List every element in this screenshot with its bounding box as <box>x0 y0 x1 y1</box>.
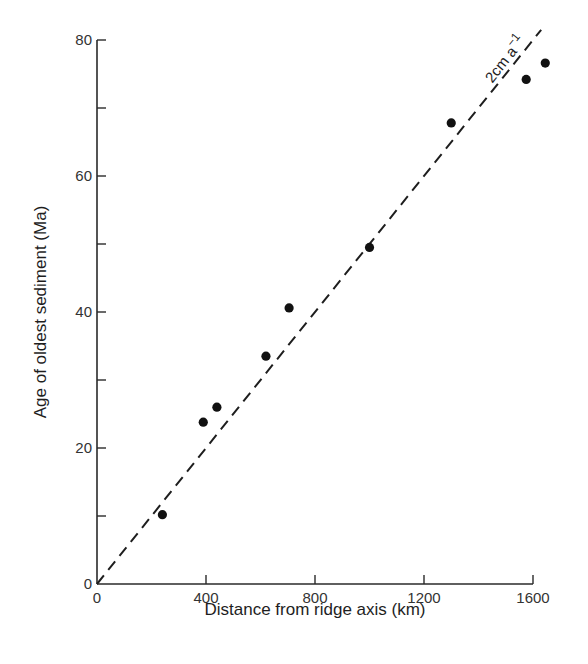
x-tick-label: 1600 <box>516 589 549 606</box>
data-point <box>541 59 550 68</box>
y-tick-label: 60 <box>75 167 92 184</box>
scatter-chart: 040080012001600020406080 2cm a−1 Distanc… <box>0 0 588 664</box>
y-tick-label: 40 <box>75 303 92 320</box>
data-point <box>199 418 208 427</box>
data-point <box>212 403 221 412</box>
x-tick-label: 0 <box>93 589 101 606</box>
data-point <box>158 510 167 519</box>
y-tick-label: 0 <box>84 575 92 592</box>
y-tick-label: 80 <box>75 31 92 48</box>
data-point <box>365 243 374 252</box>
axes: 040080012001600020406080 <box>75 31 549 606</box>
data-point <box>447 118 456 127</box>
y-tick-label: 20 <box>75 439 92 456</box>
reference-line-2cm-per-year <box>97 30 541 584</box>
y-axis-title: Age of oldest sediment (Ma) <box>31 206 50 419</box>
data-point <box>522 75 531 84</box>
x-axis-title: Distance from ridge axis (km) <box>204 600 425 619</box>
dashed-trend-line <box>97 30 541 584</box>
data-point <box>261 352 270 361</box>
data-point <box>285 303 294 312</box>
data-points <box>158 59 550 520</box>
